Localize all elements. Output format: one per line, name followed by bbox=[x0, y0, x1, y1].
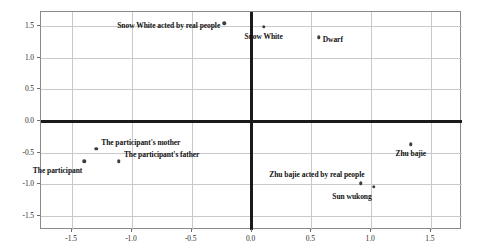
x-tick-mark bbox=[71, 229, 72, 232]
y-tick-mark bbox=[37, 25, 40, 26]
data-point[interactable] bbox=[222, 21, 226, 25]
data-point-label: The participant bbox=[33, 166, 82, 175]
data-point-label: The participant's mother bbox=[101, 137, 180, 146]
data-point[interactable] bbox=[372, 185, 376, 189]
x-tick-mark bbox=[430, 229, 431, 232]
data-point[interactable] bbox=[117, 159, 121, 163]
data-point[interactable] bbox=[94, 147, 98, 151]
data-point[interactable] bbox=[262, 25, 266, 29]
data-point[interactable] bbox=[317, 35, 321, 39]
data-point-label: Zhu bajie acted by real people bbox=[269, 170, 364, 179]
x-axis-tick-label: 0.0 bbox=[246, 234, 255, 243]
x-axis-tick-label: 0.5 bbox=[306, 234, 315, 243]
data-point-label: Snow White acted by real people bbox=[117, 21, 220, 30]
x-tick-mark bbox=[191, 229, 192, 232]
y-tick-mark bbox=[37, 215, 40, 216]
scatter-plot: -1.5-1.0-0.50.00.51.01.51.51.00.50.0-0.5… bbox=[0, 0, 481, 251]
y-axis-tick-label: 1.0 bbox=[10, 52, 34, 61]
y-axis-tick-label: 1.5 bbox=[10, 20, 34, 29]
plot-frame bbox=[40, 11, 461, 229]
x-axis-tick-label: -1.5 bbox=[65, 234, 76, 243]
y-axis-tick-label: -1.5 bbox=[10, 211, 34, 220]
y-axis-tick-label: 0.0 bbox=[10, 116, 34, 125]
y-tick-mark bbox=[37, 120, 40, 121]
y-axis-tick-label: 0.5 bbox=[10, 84, 34, 93]
data-point-label: Sun wukong bbox=[332, 191, 371, 200]
x-zero-axis bbox=[41, 120, 462, 123]
y-tick-mark bbox=[37, 152, 40, 153]
data-point[interactable] bbox=[359, 182, 363, 186]
data-point-label: Dwarf bbox=[323, 35, 343, 44]
data-point-label: Snow White bbox=[245, 31, 283, 40]
x-tick-mark bbox=[370, 229, 371, 232]
x-axis-tick-label: 1.0 bbox=[366, 234, 375, 243]
data-point[interactable] bbox=[83, 159, 87, 163]
y-axis-tick-label: -0.5 bbox=[10, 147, 34, 156]
y-axis-tick-label: -1.0 bbox=[10, 179, 34, 188]
x-axis-tick-label: -1.0 bbox=[125, 234, 136, 243]
data-point[interactable] bbox=[409, 142, 413, 146]
y-tick-mark bbox=[37, 57, 40, 58]
x-axis-tick-label: -0.5 bbox=[185, 234, 196, 243]
y-tick-mark bbox=[37, 88, 40, 89]
x-tick-mark bbox=[310, 229, 311, 232]
x-tick-mark bbox=[131, 229, 132, 232]
x-tick-mark bbox=[251, 229, 252, 232]
data-point-label: Zhu bajie bbox=[395, 149, 426, 158]
y-tick-mark bbox=[37, 183, 40, 184]
data-point-label: The participant's father bbox=[124, 150, 199, 159]
x-axis-tick-label: 1.5 bbox=[425, 234, 434, 243]
